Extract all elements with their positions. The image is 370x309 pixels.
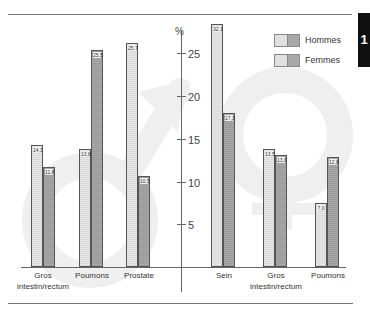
bar-hommes-group-colorectal-f: 11,8 bbox=[43, 167, 55, 267]
bar-femmes-group-breast-m: 32,1 bbox=[211, 24, 223, 267]
category-label: Prostate bbox=[104, 270, 174, 281]
y-tick bbox=[177, 182, 186, 183]
bar-femmes-group-breast-f: 17,3 bbox=[223, 113, 235, 267]
legend-swatch-femmes bbox=[274, 54, 300, 67]
y-axis bbox=[181, 30, 182, 292]
bar-femmes-group-colorectal-m: 13,5 bbox=[263, 149, 275, 267]
legend-label-hommes: Hommes bbox=[305, 35, 341, 45]
y-tick bbox=[177, 224, 186, 225]
y-tick-label: 15 bbox=[188, 134, 200, 146]
y-tick bbox=[177, 139, 186, 140]
bar-hommes-group-lung-f: 25,5 bbox=[91, 50, 103, 267]
category-label: Poumons bbox=[293, 270, 363, 281]
section-tab: 1 bbox=[358, 13, 370, 67]
bar-hommes-group-prostate-f: 10,5 bbox=[138, 176, 150, 267]
top-rule-right bbox=[160, 14, 352, 15]
y-tick bbox=[177, 96, 186, 97]
bottom-rule bbox=[8, 303, 353, 304]
y-axis-unit: % bbox=[175, 26, 184, 37]
y-tick bbox=[177, 53, 186, 54]
bar-hommes-group-prostate-m: 25,7 bbox=[126, 43, 138, 267]
bar-hommes-group-colorectal-m: 14,3 bbox=[31, 145, 43, 267]
y-tick-label: 5 bbox=[188, 219, 194, 231]
y-tick-label: 20 bbox=[188, 91, 200, 103]
legend-label-femmes: Femmes bbox=[305, 55, 340, 65]
bar-femmes-group-colorectal-f: 13,0 bbox=[275, 155, 287, 267]
bar-femmes-group-lung-m: 7,0 bbox=[315, 203, 327, 267]
bar-femmes-group-lung-f: 12,8 bbox=[327, 157, 339, 267]
y-tick-label: 10 bbox=[188, 177, 200, 189]
bar-hommes-group-lung-m: 13,8 bbox=[79, 149, 91, 267]
legend-swatch-hommes bbox=[274, 34, 300, 47]
y-tick-label: 25 bbox=[188, 48, 200, 60]
x-axis-baseline bbox=[21, 267, 346, 268]
